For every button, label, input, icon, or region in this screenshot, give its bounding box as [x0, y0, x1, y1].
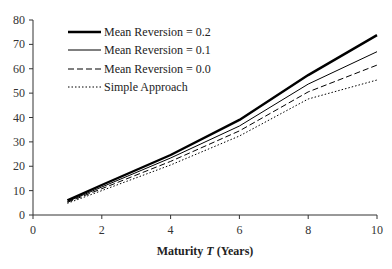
y-tick-label: 50: [13, 86, 25, 100]
x-tick-label: 2: [99, 223, 105, 237]
series-group: [67, 35, 377, 203]
legend-label: Mean Reversion = 0.1: [104, 43, 211, 57]
y-tick-label: 40: [13, 111, 25, 125]
series-line-0: [67, 35, 377, 200]
y-tick-label: 80: [13, 13, 25, 27]
x-tick-label: 8: [305, 223, 311, 237]
y-tick-label: 30: [13, 135, 25, 149]
y-tick-label: 20: [13, 159, 25, 173]
legend-label: Simple Approach: [104, 80, 188, 94]
x-axis-title: Maturity T (Years): [157, 244, 254, 258]
x-tick-label: 4: [168, 223, 174, 237]
legend-label: Mean Reversion = 0.2: [104, 25, 211, 39]
x-tick-label: 0: [30, 223, 36, 237]
y-tick-label: 60: [13, 62, 25, 76]
y-axis: 01020304050607080: [13, 13, 33, 222]
y-tick-label: 10: [13, 184, 25, 198]
y-tick-label: 0: [19, 208, 25, 222]
line-chart: 01020304050607080 0246810 Mean Reversion…: [0, 0, 392, 269]
x-tick-label: 10: [371, 223, 383, 237]
x-tick-label: 6: [236, 223, 242, 237]
legend-label: Mean Reversion = 0.0: [104, 62, 211, 76]
x-axis: 0246810: [30, 215, 383, 237]
series-line-3: [67, 80, 377, 203]
legend: Mean Reversion = 0.2Mean Reversion = 0.1…: [68, 25, 211, 94]
y-tick-label: 70: [13, 37, 25, 51]
